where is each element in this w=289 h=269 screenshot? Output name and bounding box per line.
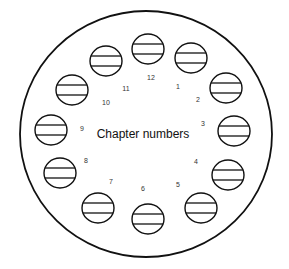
chapter-number: 6 <box>141 185 145 192</box>
chapter-circle <box>218 116 250 146</box>
chapter-9: 9 <box>35 115 84 145</box>
chapter-number: 9 <box>80 125 84 132</box>
chapter-number: 2 <box>196 96 200 103</box>
chapter-4: 4 <box>194 158 244 190</box>
chapter-circle <box>56 75 88 105</box>
chapter-number: 3 <box>201 120 205 127</box>
chapter-7: 7 <box>82 178 114 223</box>
center-label: Chapter numbers <box>97 127 190 141</box>
chapter-8: 8 <box>44 157 88 188</box>
chapter-circle <box>44 158 76 188</box>
chapter-circle <box>35 115 67 145</box>
chapter-circle <box>132 204 164 234</box>
chapter-number: 5 <box>176 181 180 188</box>
chapter-number: 11 <box>122 85 129 92</box>
chapter-number: 4 <box>194 158 198 165</box>
chapter-number: 7 <box>109 178 113 185</box>
chapter-circle <box>132 34 164 64</box>
chapter-10: 10 <box>56 75 110 106</box>
chapter-circle <box>212 160 244 190</box>
chapter-6: 6 <box>132 185 164 234</box>
chapter-circle <box>175 43 207 73</box>
chapter-11: 11 <box>90 46 130 92</box>
chapter-1: 1 <box>175 43 207 90</box>
chapter-circle <box>185 193 217 223</box>
chapter-number: 12 <box>147 74 155 81</box>
chapter-number: 10 <box>102 99 110 106</box>
chapter-5: 5 <box>176 181 217 223</box>
chapter-diagram: 121234567891011 Chapter numbers <box>0 0 289 269</box>
chapter-12: 12 <box>132 34 164 81</box>
chapter-circle <box>90 46 122 76</box>
chapter-circle <box>210 73 242 103</box>
chapter-number: 8 <box>84 157 88 164</box>
chapter-2: 2 <box>196 73 242 103</box>
chapter-number: 1 <box>176 83 180 90</box>
chapter-circle <box>82 193 114 223</box>
chapter-3: 3 <box>201 116 250 146</box>
